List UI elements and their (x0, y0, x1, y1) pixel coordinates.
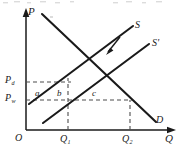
x-tick-q1-subscript: 1 (68, 139, 71, 145)
supply-curve-label: S (135, 20, 140, 30)
supply-curve (29, 26, 133, 104)
y-tick-label-pw: Pw (5, 93, 15, 104)
x-tick-q2-subscript: 2 (130, 139, 133, 145)
x-tick-q1-base: Q (60, 133, 67, 144)
guide-lines (26, 78, 132, 130)
demand-curve (42, 14, 156, 122)
x-tick-label-q1: Q1 (60, 134, 71, 145)
x-axis-label: Q (165, 133, 173, 144)
area-label-c: c (92, 89, 96, 98)
origin-label: O (15, 133, 22, 143)
economics-supply-demand-figure: P Q O Pd Pw Q1 Q2 S S' D a b c (0, 0, 179, 156)
supply-shifted-label-prime: ' (157, 37, 159, 48)
area-label-a: a (35, 89, 40, 98)
supply-shifted-curve-label: S' (152, 38, 159, 48)
y-tick-pw-subscript: w (11, 98, 15, 104)
supply-shifted-curve (43, 44, 149, 123)
y-tick-pd-subscript: d (11, 80, 14, 86)
y-tick-label-pd: Pd (5, 75, 14, 86)
y-axis-label: P (28, 6, 35, 17)
x-tick-label-q2: Q2 (122, 134, 133, 145)
demand-curve-label: D (156, 115, 163, 125)
area-label-b: b (57, 89, 62, 98)
axes (26, 14, 170, 130)
figure-canvas (0, 0, 179, 156)
supply-curve-label-text: S (135, 19, 140, 30)
x-tick-q2-base: Q (122, 133, 129, 144)
